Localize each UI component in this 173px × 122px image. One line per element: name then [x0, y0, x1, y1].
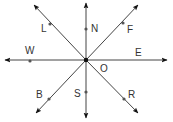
point-n [84, 27, 87, 30]
point-w [28, 59, 31, 62]
label-w: W [25, 45, 35, 56]
label-f: F [127, 24, 133, 35]
point-f [121, 21, 124, 24]
label-e: E [135, 47, 142, 58]
arrow-r [86, 60, 138, 113]
compass-diagram: N F E R S B W L O [0, 0, 173, 122]
point-s [84, 90, 87, 93]
point-b [47, 97, 50, 100]
arrow-b [36, 60, 86, 113]
point-l [48, 22, 51, 25]
point-r [122, 97, 125, 100]
label-s: S [74, 88, 81, 99]
label-center: O [100, 63, 108, 74]
label-b: B [36, 89, 43, 100]
label-n: N [91, 23, 98, 34]
label-l: L [41, 23, 47, 34]
center-point [84, 58, 88, 62]
label-r: R [128, 89, 135, 100]
